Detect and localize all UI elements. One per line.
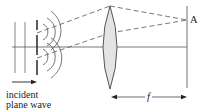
incident-arrow [12,80,37,84]
point-A-label: A [190,15,198,26]
diffracted-waves-lower-slit [43,38,62,78]
diffracted-waves-upper-slit [43,11,61,50]
converging-lens [103,6,117,89]
plane-wave-label: plane wave [6,100,51,110]
focal-length-label: f [145,92,152,103]
